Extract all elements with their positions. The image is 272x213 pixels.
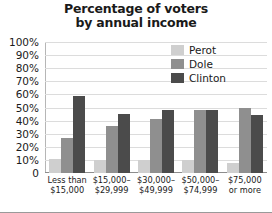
y-axis-tick-label: 90% (16, 50, 39, 60)
y-axis-tick-label: 40% (16, 116, 39, 126)
bar-clinton (206, 110, 218, 173)
legend-label: Dole (189, 59, 213, 70)
bar-groups (45, 42, 267, 173)
bar-group (89, 42, 133, 173)
chart-legend: PerotDoleClinton (171, 43, 226, 85)
bar-perot (49, 159, 61, 173)
legend-item-perot: Perot (171, 43, 226, 57)
x-axis-labels: Less than $15,000$15,000– $29,999$30,000… (45, 176, 267, 195)
bar-group (45, 42, 89, 173)
legend-label: Perot (189, 45, 216, 56)
bar-dole (239, 108, 251, 174)
bar-perot (227, 163, 239, 173)
y-axis-tick-label: 50% (16, 103, 39, 113)
chart-title-line-2: by annual income (0, 16, 272, 30)
bar-clinton (162, 110, 174, 173)
bar-dole (106, 126, 118, 173)
legend-item-clinton: Clinton (171, 71, 226, 85)
legend-swatch-perot (171, 45, 184, 55)
bar-clinton (118, 114, 130, 173)
bar-clinton (251, 115, 263, 173)
bar-group (223, 42, 267, 173)
chart-title-line-1: Percentage of voters (64, 1, 208, 16)
y-axis-labels: 100%90%80%70%60%50%40%30%20%10%0 (0, 42, 42, 173)
bar-chart-figure: Percentage of voters by annual income 10… (0, 0, 272, 213)
legend-swatch-dole (171, 59, 184, 69)
x-axis-tick-label: $30,000– $49,999 (134, 176, 178, 195)
bar-perot (182, 160, 194, 173)
bar-dole (61, 138, 73, 173)
y-axis-tick-label: 80% (16, 63, 39, 73)
x-axis-tick-label: $15,000– $29,999 (89, 176, 133, 195)
x-axis-tick-label: $50,000– $74,999 (178, 176, 222, 195)
bar-dole (150, 119, 162, 173)
bar-perot (94, 160, 106, 173)
plot-area (45, 42, 267, 173)
bar-dole (194, 110, 206, 173)
y-axis-tick-label: 70% (16, 76, 39, 86)
y-axis-tick-label: 10% (16, 155, 39, 165)
chart-title: Percentage of voters by annual income (0, 2, 272, 30)
legend-label: Clinton (189, 73, 226, 84)
y-axis-tick-label: 0 (32, 168, 39, 178)
y-axis-tick-label: 100% (9, 37, 39, 47)
bar-perot (138, 160, 150, 173)
x-axis-tick-label: Less than $15,000 (45, 176, 89, 195)
legend-item-dole: Dole (171, 57, 226, 71)
y-axis-tick-label: 20% (16, 142, 39, 152)
bar-clinton (73, 96, 85, 173)
x-axis-tick-label: $75,000 or more (223, 176, 267, 195)
y-axis-tick-label: 60% (16, 89, 39, 99)
y-axis-tick-label: 30% (16, 129, 39, 139)
legend-swatch-clinton (171, 73, 184, 83)
